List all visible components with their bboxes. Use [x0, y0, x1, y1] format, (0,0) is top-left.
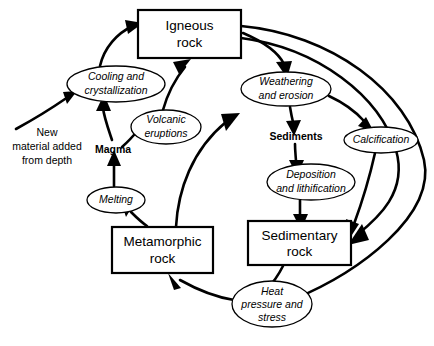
cooling-and-crystallization-label-line1: Cooling and: [88, 70, 145, 82]
calcification-label: Calcification: [353, 133, 410, 145]
new-material-label-line3: from depth: [22, 154, 72, 166]
deposition-and-lithification-label-line2: and lithification: [276, 182, 346, 194]
new-material-label-line2: material added: [12, 140, 82, 152]
magma-label: Magma: [95, 143, 131, 155]
weathering-and-erosion-label-line2: and erosion: [259, 89, 314, 101]
node-deposition-and-lithification[interactable]: Deposition and lithification: [267, 164, 355, 200]
volcanic-eruptions-label-line2: eruptions: [144, 127, 188, 139]
label-new-material-added-from-depth: New material added from depth: [12, 126, 82, 166]
label-sediments: Sediments: [269, 130, 322, 142]
rock-cycle-diagram: Igneous rock Metamorphic rock Sedimentar…: [0, 0, 434, 346]
sediments-label: Sediments: [269, 130, 322, 142]
metamorphic-rock-label-line1: Metamorphic: [123, 234, 201, 249]
igneous-rock-label-line2: rock: [177, 35, 203, 50]
weathering-and-erosion-label-line1: Weathering: [259, 75, 313, 87]
node-volcanic-eruptions[interactable]: Volcanic eruptions: [131, 110, 201, 144]
arrow-heat-to-metamorphic: [168, 273, 234, 300]
arrow-volcanic-to-igneous: [163, 59, 191, 110]
node-calcification[interactable]: Calcification: [344, 127, 418, 153]
sedimentary-rock-label-line2: rock: [287, 244, 313, 259]
node-heat-pressure-and-stress[interactable]: Heat pressure and stress: [232, 281, 312, 327]
node-weathering-and-erosion[interactable]: Weathering and erosion: [241, 72, 331, 106]
diagram-canvas: Igneous rock Metamorphic rock Sedimentar…: [0, 0, 434, 346]
arrow-cooling-to-igneous: [100, 20, 143, 66]
deposition-and-lithification-label-line1: Deposition: [286, 168, 336, 180]
arrow-new-material-to-cooling: [16, 91, 77, 129]
cooling-and-crystallization-label-line2: crystallization: [84, 84, 147, 96]
node-sedimentary-rock[interactable]: Sedimentary rock: [248, 221, 351, 265]
igneous-rock-label-line1: Igneous: [165, 18, 213, 33]
node-metamorphic-rock[interactable]: Metamorphic rock: [112, 227, 213, 273]
new-material-label-line1: New: [36, 126, 57, 138]
heat-pressure-and-stress-label-line2: pressure and: [240, 298, 303, 310]
node-igneous-rock[interactable]: Igneous rock: [138, 10, 241, 58]
melting-label: Melting: [99, 193, 133, 205]
node-melting[interactable]: Melting: [87, 187, 145, 213]
volcanic-eruptions-label-line1: Volcanic: [146, 113, 186, 125]
heat-pressure-and-stress-label-line1: Heat: [261, 285, 284, 297]
label-magma: Magma: [95, 143, 131, 155]
arrow-melting-to-magma: [107, 150, 121, 186]
metamorphic-rock-label-line2: rock: [150, 251, 176, 266]
node-cooling-and-crystallization[interactable]: Cooling and crystallization: [67, 66, 165, 102]
heat-pressure-and-stress-label-line3: stress: [258, 311, 287, 323]
sedimentary-rock-label-line1: Sedimentary: [262, 228, 338, 243]
